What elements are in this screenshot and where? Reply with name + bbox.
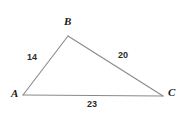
side-ab-line xyxy=(23,36,68,95)
vertex-label-b: B xyxy=(64,16,71,27)
side-bc-line xyxy=(68,36,163,96)
vertex-label-a: A xyxy=(11,88,18,99)
side-ac-line xyxy=(23,95,163,96)
side-length-ac: 23 xyxy=(87,100,97,109)
side-length-ab: 14 xyxy=(27,53,37,62)
triangle-figure: A B C 14 20 23 xyxy=(0,0,184,120)
vertex-label-c: C xyxy=(168,87,175,98)
side-length-bc: 20 xyxy=(118,51,128,60)
